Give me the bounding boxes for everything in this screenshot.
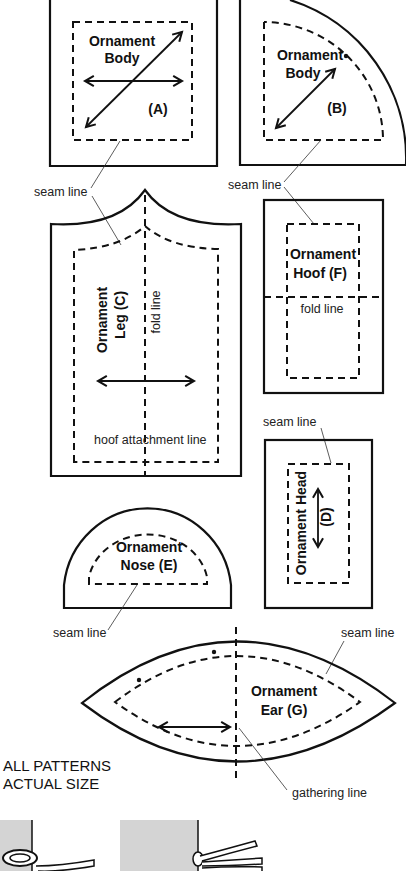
piece-body-a: Ornament Body (A)	[50, 0, 217, 166]
piece-d-code: (D)	[318, 507, 334, 526]
seam-line-label: seam line	[341, 626, 395, 640]
piece-leg-c: Ornament Leg (C) fold line hoof attachme…	[51, 190, 241, 476]
piece-hoof-f: Ornament Hoof (F) fold line	[264, 200, 383, 393]
piece-f-title2: Hoof (F)	[293, 265, 347, 281]
piece-c-title: Ornament	[94, 287, 110, 353]
seam-line-label: seam line	[263, 415, 317, 429]
piece-b-code: (B)	[327, 100, 346, 116]
seam-line-label: seam line	[34, 185, 88, 199]
piece-head-d: Ornament Head (D)	[265, 440, 372, 608]
piece-f-title: Ornament	[290, 246, 356, 262]
fold-line-label: fold line	[149, 290, 163, 333]
piece-ear-g: Ornament Ear (G)	[82, 627, 395, 780]
piece-body-b: Ornament Body (B)	[240, 0, 406, 165]
piece-b-title2: Body	[286, 65, 321, 81]
note-line-2: ACTUAL SIZE	[3, 775, 99, 792]
piece-a-code: (A)	[148, 101, 167, 117]
piece-a-title: Ornament	[89, 33, 155, 49]
piece-nose-e: Ornament Nose (E)	[64, 508, 231, 608]
piece-e-title: Ornament	[116, 539, 182, 555]
piece-d-title: Ornament Head	[293, 471, 309, 575]
knot-illustration-icon	[0, 820, 94, 871]
hoof-attachment-line-label: hoof attachment line	[94, 433, 207, 447]
fold-line-label: fold line	[300, 302, 343, 316]
piece-e-title2: Nose (E)	[121, 557, 178, 573]
note-line-1: ALL PATTERNS	[3, 757, 111, 774]
seam-line-label: seam line	[228, 178, 282, 192]
piece-g-title2: Ear (G)	[261, 702, 308, 718]
pattern-sheet: Ornament Body (A) Ornament Body (B) seam…	[0, 0, 406, 871]
seam-line-label: seam line	[53, 626, 107, 640]
piece-b-title: Ornament	[277, 47, 343, 63]
knot-illustration-icon	[120, 820, 262, 871]
piece-c-title2: Leg (C)	[112, 291, 128, 339]
gathering-line-label: gathering line	[292, 786, 367, 800]
piece-g-title: Ornament	[251, 683, 317, 699]
piece-a-title2: Body	[105, 50, 140, 66]
